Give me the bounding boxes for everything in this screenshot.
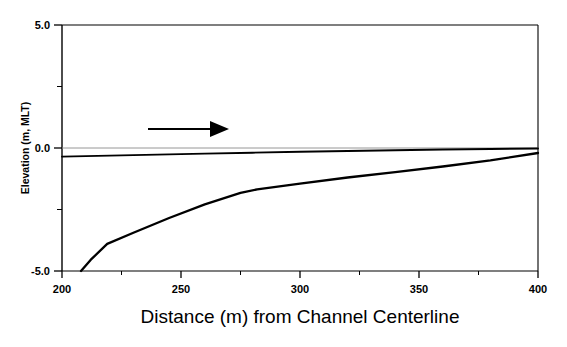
arrow-head-icon bbox=[210, 121, 229, 137]
y-axis-major-ticks bbox=[54, 25, 62, 271]
x-tick-label-200: 200 bbox=[53, 283, 71, 295]
x-tick-label-350: 350 bbox=[410, 283, 428, 295]
water-surface-profile-line bbox=[62, 149, 538, 157]
x-tick-label-250: 250 bbox=[172, 283, 190, 295]
x-tick-label-400: 400 bbox=[529, 283, 547, 295]
flow-direction-arrow bbox=[148, 121, 229, 137]
elevation-profile-chart: 5.0 0.0 -5.0 200 250 300 350 400 Elevati… bbox=[0, 0, 567, 347]
y-tick-label-0: 0.0 bbox=[35, 142, 50, 154]
y-tick-label-minus5: -5.0 bbox=[31, 265, 50, 277]
x-axis-major-ticks bbox=[62, 271, 538, 278]
y-axis-title: Elevation (m, MLT) bbox=[19, 102, 31, 195]
x-axis-title: Distance (m) from Channel Centerline bbox=[141, 306, 460, 327]
channel-bed-profile-line bbox=[81, 153, 538, 271]
chart-figure: 5.0 0.0 -5.0 200 250 300 350 400 Elevati… bbox=[0, 0, 567, 347]
x-tick-label-300: 300 bbox=[291, 283, 309, 295]
y-tick-label-5: 5.0 bbox=[35, 19, 50, 31]
